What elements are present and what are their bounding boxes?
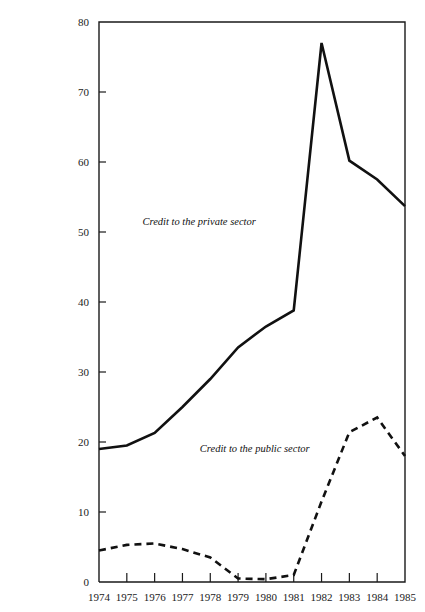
x-tick-label: 1979: [227, 591, 250, 603]
y-axis-tick-labels: 01020304050607080: [78, 16, 90, 588]
x-tick-label: 1980: [255, 591, 278, 603]
x-tick-label: 1976: [144, 591, 167, 603]
series-credit-public-sector: [99, 418, 405, 580]
x-tick-label: 1983: [338, 591, 361, 603]
x-tick-label: 1984: [366, 591, 389, 603]
y-tick-label: 10: [78, 506, 90, 518]
x-tick-label: 1978: [199, 591, 222, 603]
x-axis-tick-marks: [127, 573, 377, 582]
x-tick-label: 1974: [88, 591, 111, 603]
x-tick-label: 1981: [283, 591, 305, 603]
plot-frame: [99, 22, 405, 582]
series-annotations: Credit to the private sectorCredit to th…: [142, 216, 310, 454]
x-tick-label: 1985: [394, 591, 417, 603]
y-tick-label: 20: [78, 436, 90, 448]
chart-figure: 01020304050607080 1974197519761977197819…: [0, 0, 425, 612]
y-tick-label: 30: [78, 366, 90, 378]
y-tick-label: 70: [78, 86, 90, 98]
series-annotation-label: Credit to the private sector: [142, 216, 256, 227]
series-credit-private-sector: [99, 43, 405, 449]
x-axis-tick-labels: 1974197519761977197819791980198119821983…: [88, 591, 417, 603]
y-tick-label: 40: [78, 296, 90, 308]
x-tick-label: 1982: [311, 591, 333, 603]
x-tick-label: 1977: [171, 591, 194, 603]
data-series-group: [99, 43, 405, 579]
line-chart-canvas: 01020304050607080 1974197519761977197819…: [0, 0, 425, 612]
y-tick-label: 0: [84, 576, 90, 588]
y-tick-label: 60: [78, 156, 90, 168]
y-tick-label: 50: [78, 226, 90, 238]
y-tick-label: 80: [78, 16, 90, 28]
x-tick-label: 1975: [116, 591, 139, 603]
series-annotation-label: Credit to the public sector: [200, 443, 311, 454]
